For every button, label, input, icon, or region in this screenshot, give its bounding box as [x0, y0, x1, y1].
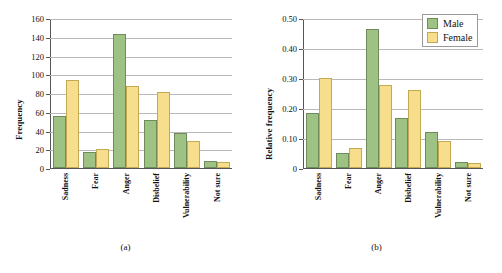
bar-male: [144, 120, 157, 168]
y-tick-mark: [46, 113, 50, 114]
x-tick-label: Fear: [344, 173, 353, 189]
x-axis-label-cell: Sadness: [303, 169, 333, 233]
bar-male: [336, 153, 349, 168]
bar-female: [379, 85, 392, 168]
bar-female: [157, 92, 170, 168]
y-tick-mark: [46, 132, 50, 133]
x-axis-labels-b: SadnessFearAngerDisbeliefVulnerabilityNo…: [303, 169, 483, 233]
bar-male: [174, 133, 187, 168]
x-axis-label-cell: Vulnerability: [171, 169, 201, 233]
legend-swatch-female: [427, 32, 438, 43]
x-tick-label: Not sure: [464, 173, 473, 202]
bar-female: [349, 148, 362, 168]
legend-item-female: Female: [427, 32, 472, 43]
legend-label-male: Male: [443, 18, 464, 29]
y-tick-label: 0.10: [259, 134, 297, 144]
x-tick-label: Sadness: [314, 173, 323, 200]
x-tick-label: Disbelief: [152, 173, 161, 203]
x-axis-label-cell: Not sure: [202, 169, 232, 233]
x-tick-label: Sadness: [61, 173, 70, 200]
bar-female: [438, 141, 451, 168]
x-axis-label-cell: Sadness: [50, 169, 80, 233]
y-tick-mark: [46, 75, 50, 76]
y-tick-label: 60: [6, 108, 44, 118]
x-tick-label: Fear: [91, 173, 100, 189]
y-tick-mark: [299, 19, 303, 20]
plot-area-a: 020406080100120140160 SadnessFearAngerDi…: [50, 19, 232, 169]
bar-female: [66, 80, 79, 168]
y-tick-label: 140: [6, 33, 44, 43]
bar-group: [334, 19, 364, 168]
bar-group: [111, 19, 141, 168]
bar-male: [395, 118, 408, 168]
bar-female: [187, 141, 200, 168]
x-tick-label: Vulnerability: [434, 173, 443, 218]
x-axis-label-cell: Not sure: [453, 169, 483, 233]
y-tick-mark: [46, 57, 50, 58]
bar-group: [51, 19, 81, 168]
bar-female: [96, 149, 109, 168]
x-axis-label-cell: Vulnerability: [423, 169, 453, 233]
bar-male: [113, 34, 126, 168]
bar-group: [304, 19, 334, 168]
x-axis-labels-a: SadnessFearAngerDisbeliefVulnerabilityNo…: [50, 169, 232, 233]
figure-container: Frequency 020406080100120140160 SadnessF…: [0, 0, 502, 273]
bar-female: [126, 86, 139, 169]
bar-male: [455, 162, 468, 168]
bar-group: [81, 19, 111, 168]
y-tick-label: 0: [6, 164, 44, 174]
y-tick-mark: [46, 94, 50, 95]
bar-female: [408, 90, 421, 168]
y-tick-label: 40: [6, 127, 44, 137]
bar-female: [319, 78, 332, 168]
x-tick-label: Vulnerability: [182, 173, 191, 218]
bar-female: [217, 162, 230, 168]
y-tick-label: 160: [6, 14, 44, 24]
bar-female: [468, 163, 481, 168]
bar-male: [366, 29, 379, 169]
x-tick-label: Anger: [374, 173, 383, 194]
y-axis-title-b: Relative frequency: [264, 88, 274, 160]
x-axis-label-cell: Fear: [333, 169, 363, 233]
panel-caption-b: (b): [251, 242, 502, 252]
bar-male: [425, 132, 438, 168]
y-tick-mark: [299, 79, 303, 80]
y-tick-mark: [299, 109, 303, 110]
y-tick-label: 120: [6, 52, 44, 62]
x-axis-label-cell: Disbelief: [141, 169, 171, 233]
x-tick-label: Disbelief: [404, 173, 413, 203]
bar-group: [202, 19, 232, 168]
x-axis-label-cell: Anger: [363, 169, 393, 233]
y-tick-label: 100: [6, 70, 44, 80]
y-tick-label: 0.40: [259, 44, 297, 54]
bar-male: [83, 152, 96, 168]
legend-label-female: Female: [443, 32, 472, 43]
y-tick-label: 20: [6, 145, 44, 155]
y-tick-mark: [46, 38, 50, 39]
chart-panel-a: Frequency 020406080100120140160 SadnessF…: [0, 0, 251, 273]
chart-panel-b: Relative frequency 00.100.200.300.400.50…: [251, 0, 502, 273]
bar-group: [142, 19, 172, 168]
bar-group-container-a: [51, 19, 232, 168]
legend-swatch-male: [427, 18, 438, 29]
legend-item-male: Male: [427, 18, 472, 29]
y-tick-mark: [299, 49, 303, 50]
y-tick-mark: [46, 150, 50, 151]
panel-caption-a: (a): [0, 242, 251, 252]
bar-male: [53, 116, 66, 169]
y-tick-mark: [46, 19, 50, 20]
y-tick-mark: [299, 139, 303, 140]
bar-group: [364, 19, 394, 168]
y-tick-label: 0: [259, 164, 297, 174]
x-axis-label-cell: Fear: [80, 169, 110, 233]
x-axis-label-cell: Disbelief: [393, 169, 423, 233]
y-tick-label: 0.20: [259, 104, 297, 114]
y-tick-label: 0.30: [259, 74, 297, 84]
y-tick-label: 80: [6, 89, 44, 99]
x-axis-label-cell: Anger: [111, 169, 141, 233]
bar-male: [204, 161, 217, 168]
x-tick-label: Not sure: [212, 173, 221, 202]
y-tick-label: 0.50: [259, 14, 297, 24]
chart-legend: MaleFemale: [422, 14, 478, 47]
x-tick-label: Anger: [121, 173, 130, 194]
